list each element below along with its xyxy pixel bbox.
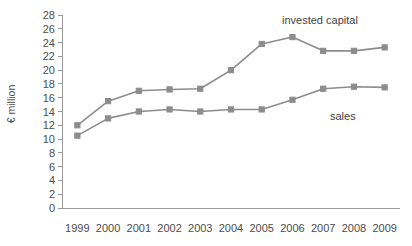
y-tick-label: 14 xyxy=(43,106,55,118)
y-tick-label: 26 xyxy=(43,23,55,35)
data-point xyxy=(290,97,295,102)
data-point xyxy=(75,123,80,128)
data-point xyxy=(228,68,233,73)
data-point xyxy=(382,45,387,50)
data-point xyxy=(105,116,110,121)
y-tick-label: 12 xyxy=(43,119,55,131)
data-point xyxy=(290,34,295,39)
x-tick-label: 2007 xyxy=(311,222,335,234)
data-point xyxy=(167,107,172,112)
y-tick-label: 20 xyxy=(43,64,55,76)
y-tick-label: 22 xyxy=(43,50,55,62)
y-axis-title: € million xyxy=(5,69,17,139)
data-point xyxy=(382,85,387,90)
data-point xyxy=(259,41,264,46)
y-tick-label: 2 xyxy=(49,188,55,200)
chart-plot-area: 0246810121416182022242628 19992000200120… xyxy=(0,0,412,246)
x-tick-label: 2008 xyxy=(342,222,366,234)
data-point xyxy=(136,88,141,93)
data-point xyxy=(351,48,356,53)
data-point xyxy=(136,109,141,114)
y-tick-label: 18 xyxy=(43,78,55,90)
x-tick-label: 2006 xyxy=(280,222,304,234)
x-tick-label: 2003 xyxy=(188,222,212,234)
x-tick-label: 1999 xyxy=(65,222,89,234)
line-chart: 0246810121416182022242628 19992000200120… xyxy=(0,0,412,246)
y-tick-label: 10 xyxy=(43,133,55,145)
data-point xyxy=(75,133,80,138)
x-tick-label: 2000 xyxy=(96,222,120,234)
series-label-invested-capital: invested capital xyxy=(282,14,358,26)
y-tick-label: 4 xyxy=(49,174,55,186)
y-axis-ticks: 0246810121416182022242628 xyxy=(43,9,62,214)
x-tick-label: 2002 xyxy=(157,222,181,234)
data-point xyxy=(321,86,326,91)
y-tick-label: 0 xyxy=(49,202,55,214)
data-point xyxy=(321,48,326,53)
y-tick-label: 8 xyxy=(49,147,55,159)
data-point xyxy=(351,84,356,89)
series-layer xyxy=(75,34,387,138)
y-tick-label: 6 xyxy=(49,161,55,173)
data-point xyxy=(198,86,203,91)
x-axis-ticks: 1999200020012002200320042005200620072008… xyxy=(65,222,397,234)
data-point xyxy=(259,107,264,112)
y-tick-label: 16 xyxy=(43,92,55,104)
data-point xyxy=(228,107,233,112)
x-tick-label: 2001 xyxy=(127,222,151,234)
y-tick-label: 24 xyxy=(43,37,55,49)
series-label-sales: sales xyxy=(330,110,356,122)
data-point xyxy=(198,109,203,114)
data-point xyxy=(167,87,172,92)
data-point xyxy=(105,99,110,104)
x-tick-label: 2005 xyxy=(249,222,273,234)
x-tick-label: 2009 xyxy=(372,222,396,234)
y-tick-label: 28 xyxy=(43,9,55,21)
x-tick-label: 2004 xyxy=(219,222,243,234)
